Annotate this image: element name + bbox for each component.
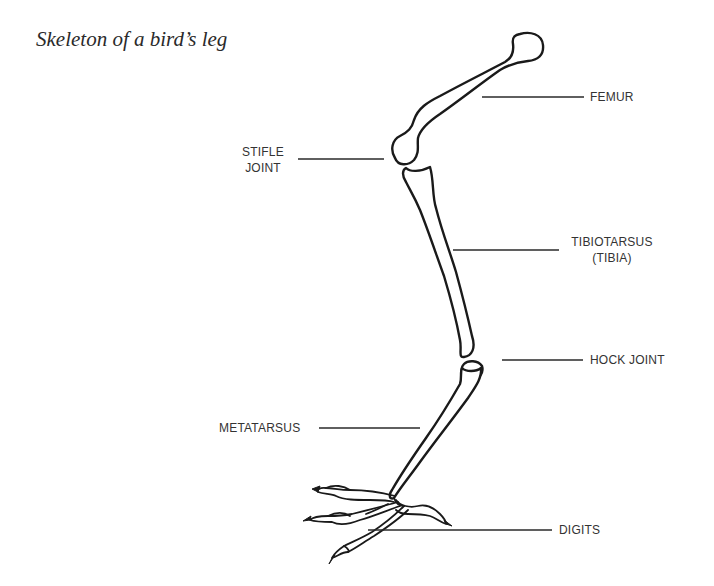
label-stifle-line2: JOINT <box>240 160 286 176</box>
label-hock-joint: HOCK JOINT <box>590 352 665 368</box>
femur-bone <box>392 33 543 164</box>
label-metatarsus: METATARSUS <box>219 420 300 436</box>
label-tibiotarsus-line2: (TIBIA) <box>562 250 662 266</box>
label-femur: FEMUR <box>590 89 634 105</box>
tibiotarsus-bone <box>403 167 474 357</box>
label-stifle-joint: STIFLE JOINT <box>240 144 286 176</box>
metatarsus-bone <box>390 368 481 499</box>
label-stifle-line1: STIFLE <box>240 144 286 160</box>
label-digits: DIGITS <box>559 522 600 538</box>
label-tibiotarsus: TIBIOTARSUS (TIBIA) <box>562 234 662 266</box>
bird-leg-skeleton <box>0 0 714 586</box>
digits-bones <box>303 486 452 564</box>
label-tibiotarsus-line1: TIBIOTARSUS <box>562 234 662 250</box>
